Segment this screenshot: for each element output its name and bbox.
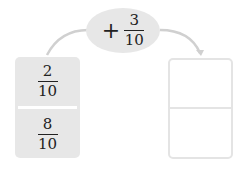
denominator: 10 <box>38 82 57 99</box>
plus-sign: + <box>102 20 120 42</box>
source-card: 2 10 8 10 <box>15 57 80 158</box>
arrow-left-arc <box>47 30 88 55</box>
numerator: 8 <box>41 117 55 134</box>
fraction: 8 10 <box>38 117 58 152</box>
denominator: 10 <box>125 31 144 48</box>
fraction: 2 10 <box>38 64 58 99</box>
result-bottom-cell[interactable] <box>170 109 231 157</box>
operation-bubble: + 3 10 <box>86 8 160 53</box>
result-card <box>168 58 233 159</box>
card-divider <box>18 106 77 109</box>
arrowhead-icon <box>196 50 204 56</box>
operation-fraction: 3 10 <box>124 13 144 48</box>
arrow-right-arc <box>160 30 200 53</box>
result-top-cell[interactable] <box>170 60 231 107</box>
numerator: 2 <box>41 64 55 81</box>
numerator: 3 <box>127 13 141 30</box>
source-bottom-cell: 8 10 <box>15 110 80 158</box>
source-top-cell: 2 10 <box>15 57 80 105</box>
denominator: 10 <box>38 135 57 152</box>
